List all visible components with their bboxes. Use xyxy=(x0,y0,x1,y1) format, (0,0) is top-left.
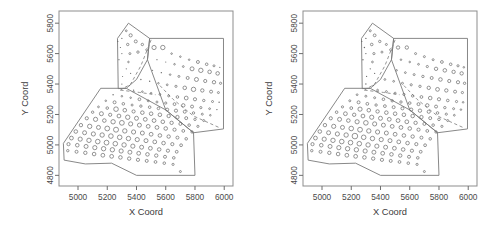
data-bubble xyxy=(323,123,326,126)
data-bubble xyxy=(352,133,358,139)
data-bubble xyxy=(74,130,78,134)
data-bubble xyxy=(375,104,377,106)
data-bubble xyxy=(122,103,125,106)
data-bubble xyxy=(446,99,449,102)
boundary-polygon-northeast-block xyxy=(391,38,467,132)
panel-right-canvas: 500052005400560058006000X Coord480050005… xyxy=(244,0,488,239)
data-bubble xyxy=(193,98,196,101)
data-bubble xyxy=(209,108,211,110)
data-bubble xyxy=(140,105,142,107)
data-bubble xyxy=(196,60,199,63)
data-bubble xyxy=(404,72,406,74)
data-bubble xyxy=(457,65,459,67)
data-bubble xyxy=(375,144,379,148)
data-bubble xyxy=(362,59,363,60)
data-bubble xyxy=(418,109,421,112)
data-bubble xyxy=(129,85,130,86)
data-bubble xyxy=(328,144,332,148)
data-bubble xyxy=(388,139,392,143)
y-tick-label: 5200 xyxy=(289,105,299,124)
data-bubble xyxy=(463,82,465,84)
data-bubble xyxy=(136,158,139,161)
data-bubble xyxy=(429,117,432,120)
data-bubble xyxy=(375,130,379,134)
data-bubble xyxy=(190,67,194,71)
data-bubble xyxy=(384,131,388,135)
data-bubble xyxy=(349,126,354,131)
data-bubble xyxy=(83,131,87,135)
data-bubble xyxy=(319,143,323,147)
data-bubble xyxy=(105,100,107,102)
data-bubble xyxy=(188,124,191,127)
data-bubble xyxy=(140,131,144,135)
data-bubble xyxy=(88,124,92,128)
data-bubble xyxy=(154,161,157,164)
data-bubble xyxy=(438,118,441,121)
data-bubble xyxy=(141,111,145,115)
data-bubble xyxy=(414,121,417,124)
data-bubble xyxy=(216,72,220,76)
data-bubble xyxy=(176,96,179,99)
data-bubble xyxy=(161,120,165,124)
boundary-dashed-internal-division-ne xyxy=(364,40,395,90)
data-bubble xyxy=(149,81,150,82)
data-bubble xyxy=(408,127,412,131)
data-bubble xyxy=(219,67,220,68)
data-bubble xyxy=(106,107,109,110)
data-bubble xyxy=(409,61,411,63)
data-bubble xyxy=(183,86,187,90)
y-tick-label: 5400 xyxy=(45,74,55,93)
data-bubble xyxy=(373,53,375,55)
data-bubble xyxy=(100,133,104,137)
data-bubble xyxy=(148,106,151,109)
data-bubble xyxy=(372,150,376,154)
data-bubble xyxy=(411,114,415,118)
data-bubble xyxy=(370,115,374,119)
data-bubble xyxy=(365,38,366,39)
data-bubble xyxy=(168,95,170,97)
data-bubble xyxy=(337,146,341,150)
two-panel-bubble-map-figure: 500052005400560058006000X Coord480050005… xyxy=(0,0,488,239)
data-bubble xyxy=(123,129,127,133)
data-bubble xyxy=(328,151,331,154)
data-bubble xyxy=(311,149,313,151)
data-bubble xyxy=(379,137,383,141)
x-tick-label: 6000 xyxy=(215,192,234,202)
data-bubble xyxy=(131,130,135,134)
data-bubble xyxy=(385,111,389,115)
data-bubble xyxy=(402,134,406,138)
data-bubble xyxy=(417,103,420,106)
data-bubble xyxy=(121,83,122,84)
data-bubble xyxy=(441,61,444,64)
data-bubble xyxy=(392,106,395,109)
data-bubble xyxy=(322,137,326,141)
data-bubble xyxy=(203,99,205,101)
data-bubble xyxy=(408,155,411,158)
data-bubble xyxy=(126,68,127,69)
data-bubble xyxy=(163,162,166,165)
data-bubble xyxy=(377,89,379,91)
data-bubble xyxy=(355,120,359,124)
data-bubble xyxy=(110,154,114,158)
data-bubble xyxy=(180,144,183,147)
data-bubble xyxy=(336,152,340,156)
data-bubble xyxy=(447,120,449,122)
data-bubble xyxy=(426,130,429,133)
data-bubble xyxy=(142,91,144,93)
data-bubble xyxy=(208,70,212,74)
data-bubble xyxy=(396,70,398,72)
data-bubble xyxy=(338,117,342,121)
data-bubble xyxy=(453,108,455,110)
data-bubble xyxy=(393,112,397,116)
data-bubble xyxy=(335,111,338,114)
data-bubble xyxy=(149,132,153,136)
data-bubble xyxy=(363,149,367,153)
data-bubble xyxy=(416,157,419,160)
data-bubble xyxy=(455,100,457,102)
data-bubble xyxy=(374,97,376,99)
data-bubble xyxy=(130,97,132,99)
data-bubble xyxy=(385,91,387,93)
data-bubble xyxy=(165,102,167,104)
data-bubble xyxy=(153,140,157,144)
data-bubble xyxy=(452,70,455,73)
